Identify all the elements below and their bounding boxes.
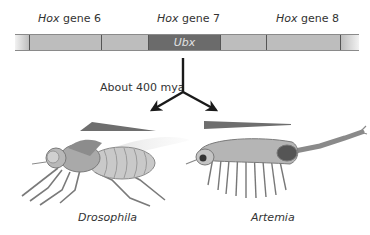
caption-artemia: Artemia	[251, 211, 295, 224]
artemia-tail	[290, 132, 362, 152]
artemia-egg-sac	[277, 145, 297, 161]
expression-wedge-drosophila	[80, 122, 156, 131]
fly-eye	[47, 151, 59, 163]
arrow-branch-left	[152, 92, 183, 110]
artemia-eye	[200, 155, 207, 162]
arrow-branch-right	[183, 92, 216, 110]
expression-wedge-artemia	[204, 121, 291, 129]
diagram-graphics	[0, 0, 370, 235]
divergence-arrow	[152, 58, 216, 110]
drosophila-illustration	[22, 137, 190, 206]
artemia-illustration	[186, 126, 367, 198]
caption-drosophila: Drosophila	[78, 211, 137, 224]
